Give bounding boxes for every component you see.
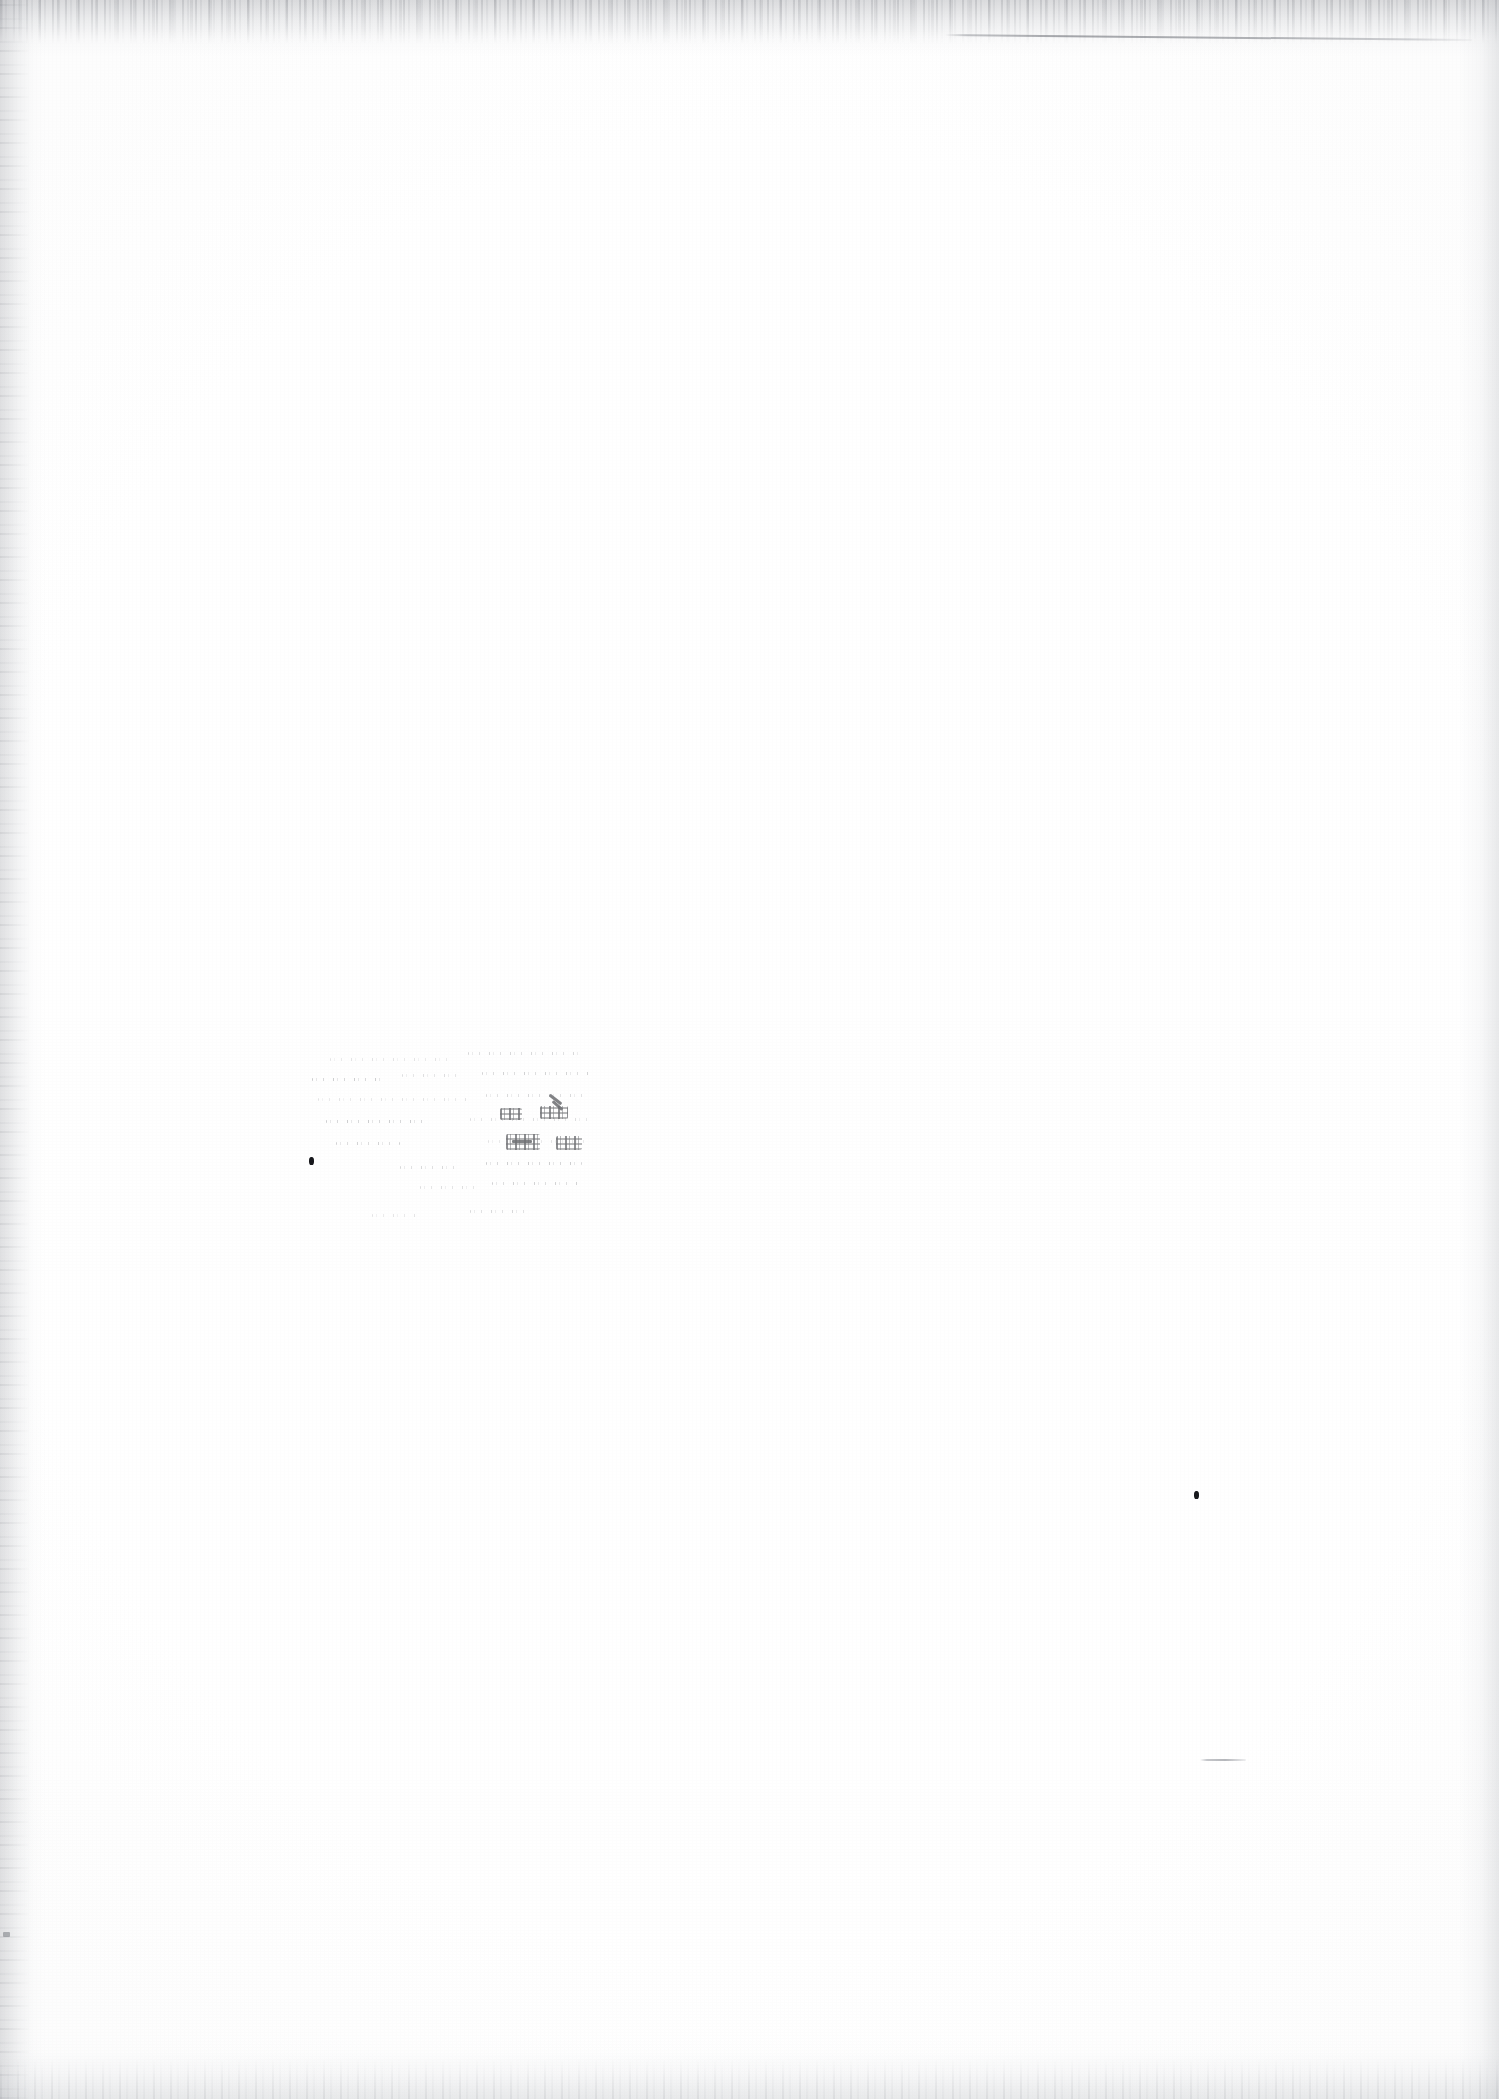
- ghost-text-row: [482, 1072, 590, 1075]
- ink-speck-right: [1194, 1491, 1199, 1499]
- ghost-text-dense-patch: [540, 1106, 568, 1119]
- ghost-text-row: [336, 1142, 400, 1145]
- ink-speck-left: [309, 1157, 314, 1165]
- ghost-text-row: [468, 1052, 580, 1055]
- faded-ghost-text: [0, 0, 1499, 2099]
- ghost-text-row: [330, 1058, 448, 1061]
- left-edge-mark: [3, 1932, 10, 1937]
- short-dash-mark: [1200, 1759, 1246, 1761]
- ghost-text-stroke: [512, 1140, 532, 1143]
- ghost-text-row: [486, 1162, 582, 1165]
- ghost-text-dense-patch: [556, 1136, 582, 1150]
- ghost-text-row: [402, 1074, 464, 1077]
- ghost-text-row: [470, 1210, 532, 1213]
- ghost-text-row: [326, 1120, 430, 1123]
- scanned-page: [0, 0, 1499, 2099]
- ghost-text-row: [312, 1078, 386, 1081]
- ghost-text-row: [318, 1098, 468, 1101]
- ghost-text-row: [420, 1186, 482, 1189]
- ghost-text-row: [470, 1118, 590, 1121]
- ghost-text-row: [372, 1214, 418, 1217]
- ghost-text-row: [486, 1094, 590, 1097]
- ghost-text-row: [492, 1182, 580, 1185]
- ghost-text-row: [400, 1166, 458, 1169]
- ghost-text-dense-patch: [500, 1108, 522, 1120]
